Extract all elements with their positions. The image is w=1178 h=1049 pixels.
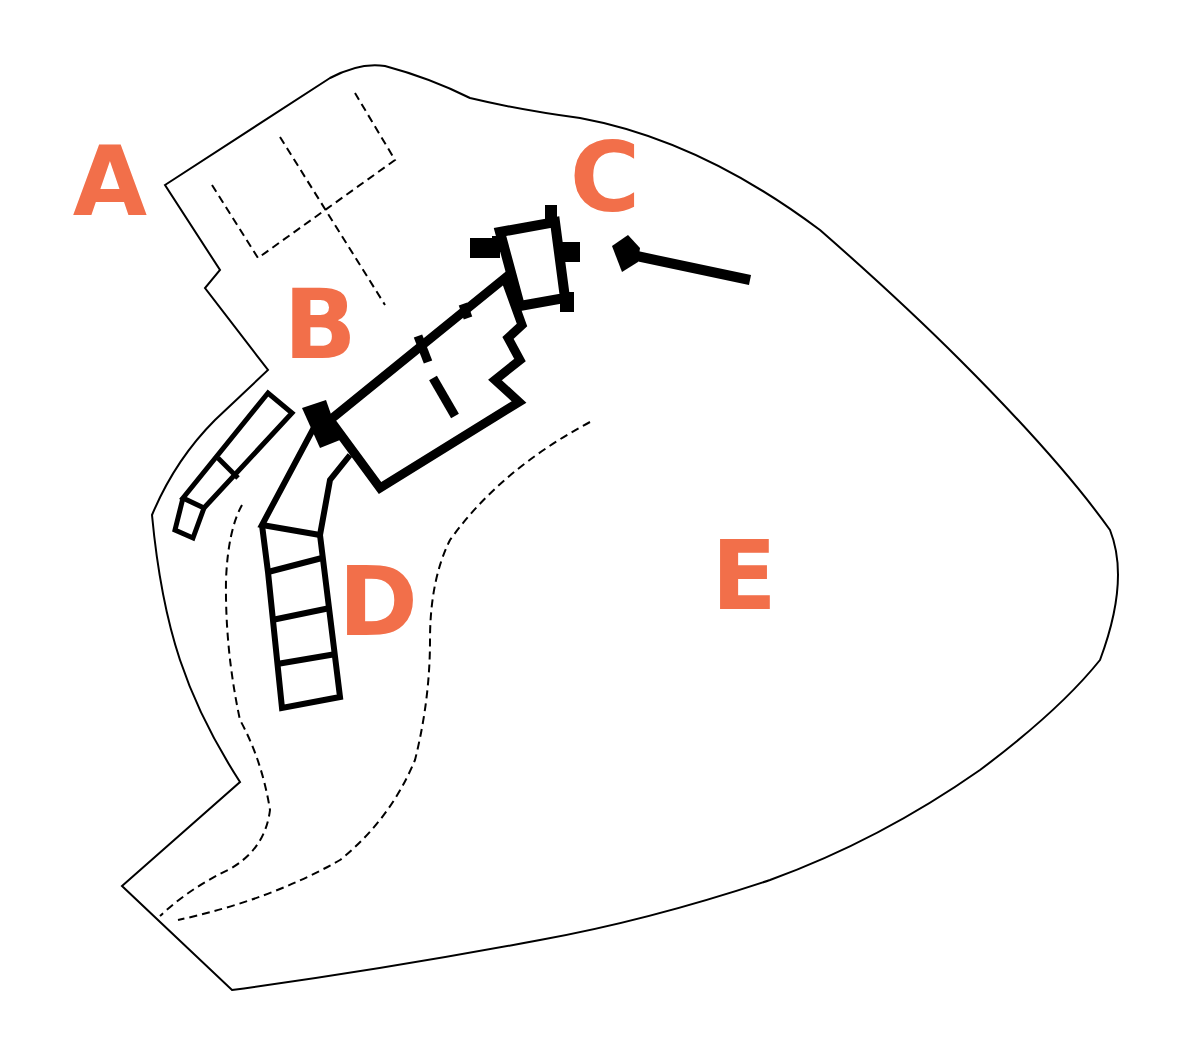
west-range (175, 393, 292, 538)
outer-tower-wall (612, 235, 750, 280)
label-a: A (73, 134, 147, 230)
label-b: B (283, 277, 356, 373)
site-plan-diagram: A B C D E (0, 0, 1178, 1049)
label-e: E (711, 528, 777, 624)
dashed-tracks (160, 422, 590, 920)
main-building (330, 278, 522, 488)
label-c: C (570, 130, 640, 226)
label-d: D (338, 554, 418, 650)
range-d (262, 420, 350, 708)
